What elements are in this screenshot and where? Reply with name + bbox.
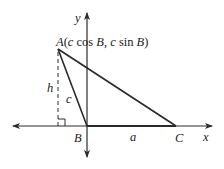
side-c xyxy=(58,49,87,126)
triangle-diagram: y x A(c cos B, c sin B) h c B a C xyxy=(0,0,224,169)
height-label: h xyxy=(47,81,53,95)
side-c-label: c xyxy=(66,92,72,106)
x-axis-label: x xyxy=(202,130,209,144)
point-c-label: C xyxy=(175,131,184,145)
side-b xyxy=(58,49,176,126)
point-b-label: B xyxy=(74,131,82,145)
side-a-label: a xyxy=(130,130,136,144)
point-a-label: A(c cos B, c sin B) xyxy=(55,35,148,49)
right-angle-marker xyxy=(58,119,65,126)
y-axis-label: y xyxy=(73,11,81,25)
